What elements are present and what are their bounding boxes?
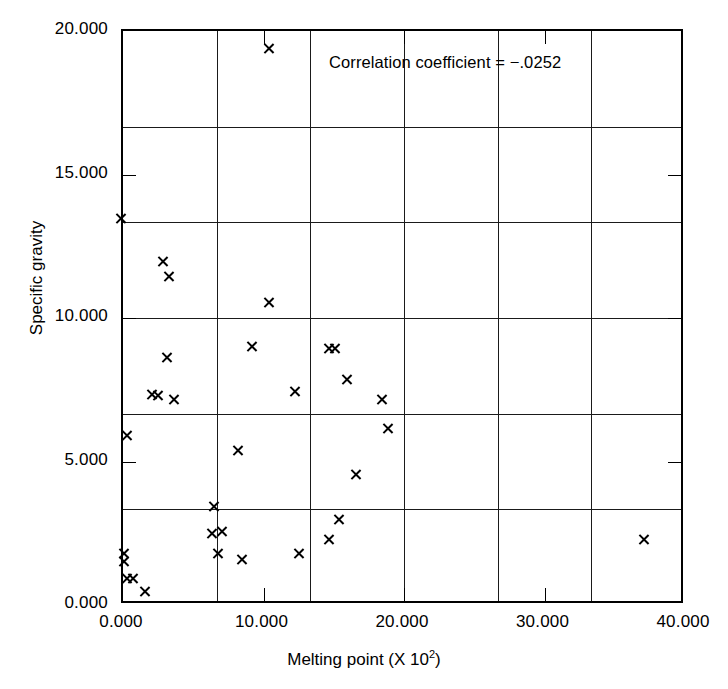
- gridline-vertical-1: [310, 31, 311, 601]
- x-tick-label-2: 20.000: [375, 612, 428, 632]
- x-axis-title: Melting point (X 102): [0, 648, 728, 670]
- y-tick-right-2: [668, 318, 681, 319]
- x-tick-label-0: 0.000: [99, 612, 143, 632]
- y-tick-2: [123, 318, 136, 319]
- x-tick-top-3: [545, 31, 546, 44]
- y-tick-right-1: [668, 462, 681, 463]
- x-tick-top-1: [264, 31, 265, 44]
- x-tick-label-3: 30.000: [516, 612, 569, 632]
- y-tick-label-1: 5.000: [0, 450, 108, 470]
- x-axis-title-text: Melting point (X 10: [287, 650, 429, 669]
- gridline-horizontal-3: [123, 222, 681, 223]
- y-tick-1: [123, 462, 136, 463]
- y-tick-right-3: [668, 175, 681, 176]
- gridline-horizontal-4: [123, 127, 681, 128]
- x-tick-label-1: 10.000: [235, 612, 288, 632]
- x-axis-title-suffix: ): [435, 650, 441, 669]
- y-tick-label-2: 10.000: [0, 306, 108, 326]
- x-tick-3: [545, 588, 546, 601]
- plot-area: [121, 29, 683, 603]
- gridline-horizontal-1: [123, 414, 681, 415]
- gridline-vertical-0: [217, 31, 218, 601]
- x-tick-top-2: [404, 31, 405, 44]
- y-tick-label-0: 0.000: [0, 593, 108, 613]
- x-tick-2: [404, 588, 405, 601]
- scatter-plot-figure: Melting point (X 102) Specific gravity C…: [0, 0, 728, 689]
- gridline-vertical-3: [498, 31, 499, 601]
- y-tick-label-4: 20.000: [0, 19, 108, 39]
- x-tick-label-4: 40.000: [656, 612, 709, 632]
- gridline-vertical-2: [404, 31, 405, 601]
- correlation-coefficient-annotation: Correlation coefficient = −.0252: [329, 53, 561, 72]
- gridline-horizontal-2: [123, 318, 681, 319]
- gridline-horizontal-0: [123, 509, 681, 510]
- y-tick-3: [123, 175, 136, 176]
- y-tick-label-3: 15.000: [0, 163, 108, 183]
- gridline-vertical-4: [591, 31, 592, 601]
- x-tick-1: [264, 588, 265, 601]
